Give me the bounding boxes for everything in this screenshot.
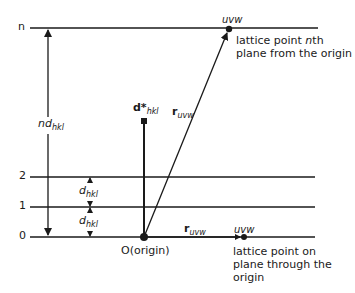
top-desc-line-2: plane from the origin [236,47,352,60]
top-lattice-point-description: lattice point nth plane from the origin [236,34,352,60]
origin-label: O(origin) [121,244,170,257]
plane-label-n: n [18,20,25,33]
r-uvw-diagonal-label: ruvw [172,105,194,122]
bottom-desc-line-2: plane through the [233,258,332,271]
top-desc-line-1: lattice point nth [236,34,352,47]
plane-label-0: 0 [19,229,26,242]
uvw-bottom-label: uvw [234,223,254,236]
bottom-lattice-point-description: lattice point on plane through the origi… [233,245,332,284]
nd-hkl-label: ndhkl [37,117,65,134]
r-uvw-horizontal-label: ruvw [184,222,206,239]
origin-point [140,233,148,241]
r-uvw-diagonal-vector [144,26,232,237]
uvw-top-label: uvw [222,13,242,26]
bottom-desc-line-1: lattice point on [233,245,332,258]
d-hkl-label-lower: dhkl [79,214,98,231]
plane-label-2: 2 [19,169,26,182]
d-hkl-label-upper: dhkl [79,184,98,201]
d-star-hkl-label: d*hkl [133,101,159,118]
bottom-desc-line-3: origin [233,271,332,284]
plane-label-1: 1 [19,199,26,212]
